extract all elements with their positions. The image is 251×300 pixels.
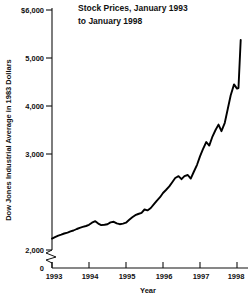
chart-title-line2: to January 1998: [78, 16, 143, 26]
chart-svg: Stock Prices, January 1993 to January 19…: [0, 0, 251, 300]
x-tick-label-1997: 1997: [193, 272, 210, 281]
y-tick-label-0: 0: [40, 264, 44, 273]
y-axis-title: Dow Jones Industrial Average in 1983 Dol…: [4, 59, 13, 221]
x-tick-label-1993: 1993: [46, 272, 63, 281]
y-tick-label-2000: 2,000: [25, 246, 44, 255]
x-tick-label-1995: 1995: [119, 272, 136, 281]
stock-prices-chart-figure: Stock Prices, January 1993 to January 19…: [0, 0, 251, 300]
y-tick-label-3000: 3,000: [25, 150, 44, 159]
y-tick-label-5000: 5,000: [25, 54, 44, 63]
chart-title-line1: Stock Prices, January 1993: [78, 3, 188, 13]
x-tick-label-1994: 1994: [82, 272, 100, 281]
x-tick-label-1996: 1996: [156, 272, 173, 281]
x-tick-label-1998: 1998: [228, 272, 245, 281]
x-axis-title: Year: [140, 286, 156, 295]
y-tick-label-4000: 4,000: [25, 102, 44, 111]
y-tick-label-6000: $6,000: [21, 6, 44, 15]
